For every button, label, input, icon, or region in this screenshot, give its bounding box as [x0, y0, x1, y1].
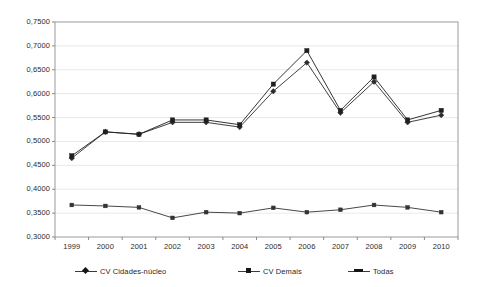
x-axis-label: 2006 [289, 242, 325, 251]
series-line [72, 63, 441, 159]
y-axis-label: 0,3000 [6, 232, 50, 241]
data-point [70, 154, 74, 158]
series-3 [70, 203, 443, 220]
data-point [204, 118, 208, 122]
y-axis-label: 0,5000 [6, 136, 50, 145]
x-axis-label: 2003 [188, 242, 224, 251]
series-line [72, 51, 441, 156]
y-axis-label: 0,6000 [6, 89, 50, 98]
y-axis-label: 0,3500 [6, 208, 50, 217]
data-point [372, 203, 376, 207]
data-point [305, 49, 309, 53]
y-axis-label: 0,4000 [6, 184, 50, 193]
legend-marker-square-icon [238, 266, 260, 276]
data-point [238, 211, 242, 215]
legend-item-label: CV Cidades-núcleo [100, 267, 166, 276]
y-axis-label: 0,7000 [6, 41, 50, 50]
x-axis-label: 2005 [255, 242, 291, 251]
x-axis-label: 2007 [322, 242, 358, 251]
plot-frame [55, 22, 458, 237]
x-axis-label: 2000 [87, 242, 123, 251]
x-axis-label: 2010 [423, 242, 459, 251]
data-point [339, 208, 343, 212]
data-point [271, 206, 275, 210]
data-point [271, 82, 275, 86]
data-point [171, 216, 175, 220]
legend-marker-plain-icon [348, 266, 370, 276]
chart-legend: CV Cidades-núcleoCV DemaisTodas [0, 261, 478, 281]
data-point [338, 108, 342, 112]
legend-item-3[interactable]: Todas [348, 266, 394, 276]
x-axis-label: 2002 [155, 242, 191, 251]
data-point [406, 118, 410, 122]
x-axis-label: 2001 [121, 242, 157, 251]
data-point [238, 123, 242, 127]
series-1 [69, 60, 444, 161]
series-line [72, 205, 441, 218]
data-point [406, 205, 410, 209]
legend-item-2[interactable]: CV Demais [238, 266, 302, 276]
data-point [372, 75, 376, 79]
data-point [137, 132, 141, 136]
x-axis-label: 2009 [390, 242, 426, 251]
y-axis-label: 0,7500 [6, 17, 50, 26]
chart-container: 0,30000,35000,40000,45000,50000,55000,60… [0, 0, 478, 287]
x-axis-label: 2004 [222, 242, 258, 251]
legend-item-label: Todas [373, 267, 394, 276]
data-point [70, 203, 74, 207]
data-point [439, 210, 443, 214]
legend-item-1[interactable]: CV Cidades-núcleo [75, 266, 166, 276]
data-point [439, 108, 443, 112]
data-point [305, 210, 309, 214]
data-point [103, 130, 107, 134]
legend-marker-diamond-icon [75, 266, 97, 276]
data-point [204, 210, 208, 214]
x-axis-label: 2008 [356, 242, 392, 251]
legend-item-label: CV Demais [263, 267, 302, 276]
y-axis-label: 0,4500 [6, 160, 50, 169]
y-axis-label: 0,5500 [6, 113, 50, 122]
data-point [103, 204, 107, 208]
y-axis-label: 0,6500 [6, 65, 50, 74]
data-point [170, 118, 174, 122]
data-point [137, 205, 141, 209]
x-axis-label: 1999 [54, 242, 90, 251]
